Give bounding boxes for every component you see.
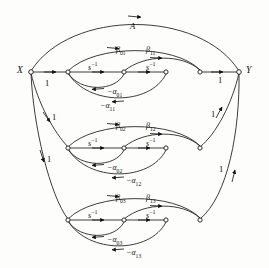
edge-row3-beta13 xyxy=(124,206,200,220)
alpha-symbol: −α xyxy=(100,101,110,110)
alpha-subscript: 11 xyxy=(110,106,115,112)
alpha-subscript: 12 xyxy=(136,181,142,187)
graph-canvas xyxy=(0,0,269,268)
edge-label-top-arc: A xyxy=(130,22,135,31)
edge-label-x-row2-gain: 1 xyxy=(52,113,56,122)
edge-x-to-row3-node1 xyxy=(31,73,68,219)
node-row2-1 xyxy=(66,146,70,150)
edge-label-row1-alpha0: −α01 xyxy=(107,88,122,98)
alpha-subscript: 01 xyxy=(117,92,123,98)
edge-label-row2-y-gain: 1 xyxy=(211,110,215,119)
node-row2-2 xyxy=(122,146,126,150)
s-exponent: −1 xyxy=(91,209,97,215)
node-row1-4 xyxy=(198,70,202,74)
alpha-symbol: −α xyxy=(126,248,136,257)
edge-label-row1-y-gain: 1 xyxy=(218,76,222,85)
node-row3-4 xyxy=(198,218,202,222)
signal-flow-graph-figure: X Y A 1 1 1 1 1 1 s−1 s−1 β01 β11 −α01 −… xyxy=(0,0,269,268)
alpha-symbol: −α xyxy=(107,163,117,172)
edge-label-row1-alpha1: −α11 xyxy=(100,102,115,112)
node-label-y: Y xyxy=(246,66,251,76)
s-exponent: −1 xyxy=(149,61,155,67)
edge-row3-node4-to-y xyxy=(200,73,239,219)
alpha-symbol: −α xyxy=(107,235,117,244)
beta-subscript: 01 xyxy=(120,50,126,56)
node-row3-1 xyxy=(66,218,70,222)
edge-label-row2-alpha1: −α12 xyxy=(126,177,141,187)
edge-label-row3-s-left: s−1 xyxy=(88,209,98,220)
node-row3-3 xyxy=(164,218,168,222)
edge-label-row2-beta1: β12 xyxy=(146,122,156,132)
beta-subscript: 02 xyxy=(120,126,126,132)
node-label-x: X xyxy=(17,66,23,76)
edge-row1-beta11 xyxy=(124,58,200,72)
edge-label-row1-beta0: β01 xyxy=(116,46,126,56)
edge-label-row2-beta0: β02 xyxy=(116,122,126,132)
node-row3-2 xyxy=(122,218,126,222)
beta-subscript: 12 xyxy=(150,126,156,132)
beta-subscript: 03 xyxy=(120,198,126,204)
edge-label-x-row1-gain: 1 xyxy=(45,79,49,88)
edge-label-row2-s-right: s−1 xyxy=(146,137,156,148)
edge-x-to-row2-node1 xyxy=(31,73,68,147)
edge-label-row1-beta1: β11 xyxy=(146,46,155,56)
edge-label-x-row3-gain: 1 xyxy=(47,155,51,164)
beta-subscript: 13 xyxy=(150,198,156,204)
edge-label-row3-beta1: β13 xyxy=(146,194,156,204)
node-x xyxy=(29,70,34,75)
s-exponent: −1 xyxy=(149,209,155,215)
edge-label-row3-alpha0: −α03 xyxy=(107,236,122,246)
edge-label-row1-s-right: s−1 xyxy=(146,61,156,72)
edge-label-row3-beta0: β03 xyxy=(116,194,126,204)
alpha-subscript: 13 xyxy=(136,253,142,259)
alpha-symbol: −α xyxy=(126,176,136,185)
s-exponent: −1 xyxy=(91,61,97,67)
node-row1-2 xyxy=(122,70,126,74)
node-row1-3 xyxy=(164,70,168,74)
alpha-subscript: 03 xyxy=(117,240,123,246)
edge-label-row1-s-left: s−1 xyxy=(88,61,98,72)
node-y xyxy=(237,70,242,75)
edge-label-row2-s-left: s−1 xyxy=(88,137,98,148)
edge-label-row3-alpha1: −α13 xyxy=(126,249,141,259)
edge-label-row2-alpha0: −α02 xyxy=(107,164,122,174)
s-exponent: −1 xyxy=(149,137,155,143)
edge-label-row3-y-gain: 1 xyxy=(219,165,223,174)
node-row1-1 xyxy=(66,70,70,74)
edge-label-row3-s-right: s−1 xyxy=(146,209,156,220)
beta-subscript: 11 xyxy=(150,50,155,56)
node-row2-4 xyxy=(198,146,202,150)
s-exponent: −1 xyxy=(91,137,97,143)
alpha-symbol: −α xyxy=(107,87,117,96)
alpha-subscript: 02 xyxy=(117,168,123,174)
edge-row2-beta12 xyxy=(124,134,200,148)
node-row2-3 xyxy=(164,146,168,150)
